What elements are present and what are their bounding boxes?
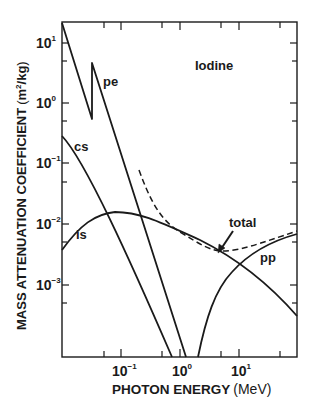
pe-curve <box>62 23 186 357</box>
cs-label: cs <box>74 139 88 154</box>
attenuation-chart: 101 100 10−1 10−2 10−3 10−1 100 101 PHOT… <box>0 0 316 401</box>
total-arrow <box>218 231 233 253</box>
x-axis-title: PHOTON ENERGY(MeV) <box>112 381 271 397</box>
pe-label: pe <box>103 74 118 89</box>
series-curves <box>62 23 297 357</box>
svg-text:100: 100 <box>36 94 57 111</box>
x-tick-labels: 10−1 100 101 <box>112 362 252 379</box>
svg-text:10−3: 10−3 <box>36 276 61 293</box>
svg-text:101: 101 <box>36 34 57 51</box>
is-label: is <box>76 227 87 242</box>
y-tick-labels: 101 100 10−1 10−2 10−3 <box>36 34 61 293</box>
pp-label: pp <box>260 250 276 265</box>
total-label: total <box>229 215 256 230</box>
cs-curve <box>62 136 172 357</box>
pp-curve <box>198 234 297 357</box>
total-curve <box>139 170 297 251</box>
x-axis-ticks <box>104 22 280 357</box>
svg-text:101: 101 <box>231 362 252 379</box>
svg-text:10−1: 10−1 <box>36 154 61 171</box>
svg-text:10−1: 10−1 <box>112 362 137 379</box>
plot-frame <box>62 22 297 357</box>
svg-text:100: 100 <box>172 362 193 379</box>
element-title: Iodine <box>195 58 233 73</box>
y-axis-title: MASS ATTENUATION COEFFICIENT(m2/kg) <box>14 61 29 330</box>
svg-text:10−2: 10−2 <box>36 215 61 232</box>
